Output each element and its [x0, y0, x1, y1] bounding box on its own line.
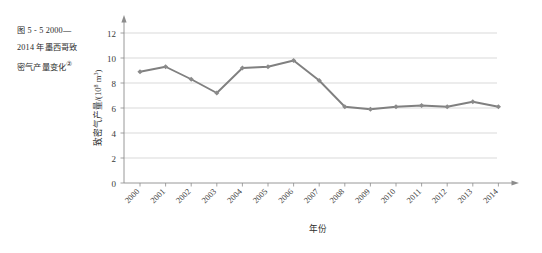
y-axis-arrow-icon [121, 15, 126, 23]
y-axis-title-unit: m [93, 75, 103, 84]
svg-text:致密气产量/(108 m3): 致密气产量/(108 m3) [92, 70, 103, 147]
data-point-2000 [137, 69, 142, 74]
x-tick-label-2002: 2002 [174, 187, 192, 205]
x-tick-label-2013: 2013 [456, 187, 474, 205]
x-axis [124, 180, 519, 186]
y-axis-title-close: ) [93, 70, 103, 73]
y-tick-label-6: 6 [112, 104, 117, 114]
x-tick-label-2007: 2007 [302, 187, 320, 205]
y-tick-label-12: 12 [107, 29, 116, 39]
x-tick-label-2001: 2001 [149, 187, 167, 205]
x-tick-label-2006: 2006 [277, 187, 295, 205]
y-tick-label-2: 2 [112, 154, 117, 164]
tight-gas-production-line-chart: 12 10 8 6 4 2 0 致密气产量/(108 m3) [0, 0, 542, 253]
x-tick-label-2012: 2012 [430, 187, 448, 205]
x-tick-label-2014: 2014 [482, 186, 501, 205]
series-line [140, 61, 498, 110]
figure-root: 图 5 - 5 2000— 2014 年墨西哥致 密气产量变化② [0, 0, 542, 253]
data-point-2012 [445, 104, 450, 109]
y-axis-title-main: 致密气产量/(10 [92, 87, 103, 146]
data-point-2010 [393, 104, 398, 109]
x-tick-label-2000: 2000 [123, 187, 141, 205]
x-tick-label-2008: 2008 [328, 187, 346, 205]
y-tick-label-0: 0 [112, 179, 117, 189]
x-tick-label-2009: 2009 [354, 187, 372, 205]
data-point-2005 [265, 64, 270, 69]
y-axis-title: 致密气产量/(108 m3) [92, 70, 103, 147]
gridlines [124, 33, 497, 158]
x-tick-label-2003: 2003 [200, 187, 218, 205]
y-tick-label-8: 8 [112, 79, 117, 89]
y-tick-label-4: 4 [112, 129, 117, 139]
y-tick-label-10: 10 [107, 54, 117, 64]
x-tick-label-2005: 2005 [251, 187, 269, 205]
x-tick-label-2011: 2011 [405, 187, 423, 205]
x-tick-label-2010: 2010 [379, 187, 397, 205]
x-axis-title: 年份 [309, 223, 327, 234]
y-tick-labels: 12 10 8 6 4 2 0 [107, 29, 117, 189]
x-tick-labels: 2000 2001 2002 2003 2004 2005 2006 2007 … [123, 186, 500, 205]
data-point-2011 [419, 103, 424, 108]
data-point-2013 [470, 99, 475, 104]
x-axis-arrow-icon [512, 180, 520, 185]
data-point-2014 [496, 104, 501, 109]
data-point-2009 [368, 107, 373, 112]
data-series-tight-gas [137, 58, 501, 112]
x-tick-label-2004: 2004 [226, 186, 245, 205]
